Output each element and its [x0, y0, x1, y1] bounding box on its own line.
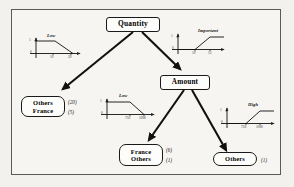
- fuzzy-chart-high: High 1 0 750 1000: [218, 104, 280, 132]
- membership-curve: [227, 111, 274, 124]
- leaf-mid-line2: Others: [131, 155, 151, 162]
- y-origin-label: 0: [221, 120, 223, 124]
- x-tick-2: 20: [68, 55, 71, 59]
- y-origin-label: 0: [172, 46, 174, 50]
- node-amount-label: Amount: [172, 78, 198, 86]
- fuzzy-term-label: Low: [47, 33, 55, 38]
- y-max-label: 1: [220, 108, 222, 112]
- leaf-right-count: (1): [261, 157, 267, 163]
- node-leaf-france-others[interactable]: France Others: [119, 144, 163, 166]
- x-tick-1: 10: [192, 51, 195, 55]
- fuzzy-term-label: Important: [198, 28, 218, 33]
- y-max-label: 1: [100, 99, 102, 103]
- membership-curve: [178, 37, 224, 50]
- leaf-left-count1: (20): [68, 99, 77, 105]
- leaf-mid-count1: (6): [166, 147, 172, 153]
- leaf-left-line1: Others: [33, 99, 53, 106]
- diagram-canvas: Quantity Amount Others France (20) (5) F…: [0, 0, 294, 187]
- node-quantity-label: Quantity: [118, 20, 148, 29]
- y-origin-label: 0: [101, 111, 103, 115]
- leaf-right-label: Others: [225, 155, 245, 162]
- leaf-left-count2: (5): [68, 109, 74, 115]
- fuzzy-chart-low-mid: Low 1 0 750 1000: [98, 95, 160, 123]
- node-amount[interactable]: Amount: [160, 75, 210, 90]
- leaf-mid-count2: (1): [166, 157, 172, 163]
- node-leaf-others-france[interactable]: Others France: [21, 96, 65, 117]
- x-tick-1: 750: [125, 116, 130, 120]
- y-max-label: 1: [171, 34, 173, 38]
- x-tick-2: 1000: [256, 125, 263, 129]
- node-quantity[interactable]: Quantity: [106, 17, 160, 32]
- x-tick-2: 1000: [139, 116, 146, 120]
- fuzzy-term-label: High: [248, 102, 258, 107]
- fuzzy-term-label: Low: [119, 93, 127, 98]
- x-tick-1: 750: [241, 125, 246, 129]
- fuzzy-chart-important: Important 1 0 10 15: [170, 29, 232, 57]
- x-tick-1: 10: [50, 55, 53, 59]
- leaf-left-line2: France: [33, 107, 53, 114]
- x-tick-2: 15: [208, 51, 211, 55]
- membership-curve: [107, 102, 144, 115]
- y-origin-label: 0: [30, 50, 32, 54]
- node-leaf-others[interactable]: Others: [213, 152, 257, 166]
- y-max-label: 1: [29, 38, 31, 42]
- membership-curve: [36, 41, 73, 54]
- fuzzy-chart-low-left: Low 1 0 10 20: [28, 34, 86, 60]
- leaf-mid-line1: France: [131, 148, 151, 155]
